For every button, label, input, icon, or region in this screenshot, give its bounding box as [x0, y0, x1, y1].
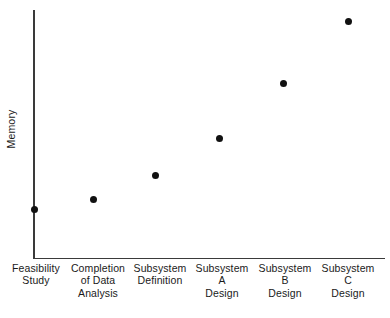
- plot-area: [34, 10, 385, 258]
- category-label-line: Subsystem: [310, 262, 386, 274]
- data-point: [152, 172, 159, 179]
- category-axis-labels: FeasibilityStudyCompletionof DataAnalysi…: [0, 262, 390, 318]
- data-point: [90, 196, 97, 203]
- data-point: [345, 18, 352, 25]
- category-label-line: C: [310, 274, 386, 286]
- y-axis-title: Memory: [0, 0, 30, 258]
- data-point: [280, 80, 287, 87]
- y-axis-title-label: Memory: [4, 109, 16, 148]
- data-point: [31, 206, 38, 213]
- category-label-line: Design: [310, 287, 386, 299]
- chart-figure: Memory FeasibilityStudyCompletionof Data…: [0, 0, 390, 318]
- category-label: SubsystemCDesign: [310, 262, 386, 299]
- data-point: [216, 135, 223, 142]
- category-label-line: Analysis: [60, 287, 136, 299]
